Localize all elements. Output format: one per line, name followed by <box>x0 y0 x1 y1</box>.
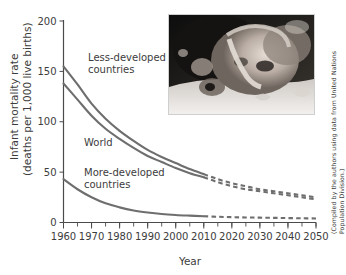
x-tick-label-2020: 2020 <box>219 231 244 242</box>
series-label-world: World <box>84 137 113 148</box>
y-tick-label-100: 100 <box>37 116 56 127</box>
y-tick-label-200: 200 <box>37 16 56 27</box>
series-projection-0 <box>204 174 316 197</box>
x-tick-label-1990: 1990 <box>135 231 160 242</box>
series-projection-2 <box>204 216 316 218</box>
x-tick-label-2040: 2040 <box>275 231 300 242</box>
series-label-less-developed-line2: countries <box>88 64 134 75</box>
y-axis-title-line1: Infant mortality rate <box>8 54 20 160</box>
x-axis-title: Year <box>178 255 202 267</box>
x-tick-label-2010: 2010 <box>191 231 216 242</box>
y-axis-title-line2: (deaths per 1,000 live births) <box>21 23 33 177</box>
x-tick-label-1970: 1970 <box>79 231 104 242</box>
y-axis-ticks: 050100150200 <box>37 16 63 229</box>
newborn-infant-photo <box>168 14 315 115</box>
x-tick-label-2050: 2050 <box>303 231 328 242</box>
x-tick-label-1980: 1980 <box>107 231 132 242</box>
x-tick-label-2000: 2000 <box>163 231 188 242</box>
x-tick-label-2030: 2030 <box>247 231 272 242</box>
figure-credit: (Compiled by the authors using data from… <box>330 19 346 234</box>
y-tick-label-0: 0 <box>50 217 56 228</box>
y-tick-label-50: 50 <box>44 167 57 178</box>
x-tick-label-1960: 1960 <box>51 231 76 242</box>
y-tick-label-150: 150 <box>37 66 56 77</box>
series-label-more-developed-line1: More-developed <box>84 167 165 178</box>
series-label-less-developed-line1: Less-developed <box>88 52 166 63</box>
x-axis-minor-ticks <box>64 223 317 227</box>
series-label-more-developed-line2: countries <box>84 179 130 190</box>
